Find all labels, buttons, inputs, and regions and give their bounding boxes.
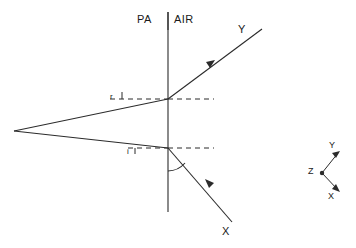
axis-arrowhead-y — [332, 151, 340, 158]
ray-label-y: Y — [238, 24, 245, 35]
axis-label-y: Y — [329, 141, 335, 150]
arrowhead-upper-ray — [206, 60, 215, 68]
refracted-ray-lower — [168, 148, 232, 222]
axis-label-z: Z — [308, 167, 314, 176]
diagram-canvas — [0, 0, 356, 248]
arrowhead-lower-ray — [205, 179, 214, 188]
axis-label-x: X — [328, 192, 334, 201]
medium-label-right: AIR — [174, 14, 194, 25]
medium-label-left: PA — [137, 14, 152, 25]
incident-ray-lower — [14, 131, 168, 148]
refracted-ray-upper — [168, 29, 262, 99]
ray-label-x: X — [222, 226, 229, 237]
incident-ray-upper — [14, 99, 168, 131]
angle-label-r: r — [110, 93, 113, 101]
refraction-diagram: PA AIR Y X r i Z Y X — [0, 0, 356, 248]
angle-label-i: i — [127, 148, 129, 156]
